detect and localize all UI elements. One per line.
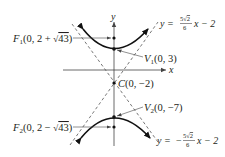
- asymptote-2-equation: y = − 5√2 6 x − 2: [156, 132, 218, 148]
- center-point: [112, 81, 115, 84]
- svg-text:y =: y =: [156, 135, 171, 146]
- svg-text:y =: y =: [159, 18, 174, 29]
- svg-text:6: 6: [186, 141, 190, 148]
- focus-2-label: F2(0, 2 − √43): [12, 122, 73, 135]
- center-label: C(0, −2): [118, 78, 154, 90]
- svg-text:−: −: [176, 135, 182, 146]
- lower-branch: [81, 118, 150, 138]
- svg-text:5√2: 5√2: [180, 15, 190, 22]
- focus-1-label: F1(0, 2 + √43): [12, 33, 73, 46]
- vertex-2-label: V2(0, −7): [144, 102, 183, 115]
- x-axis-label: x: [168, 64, 174, 75]
- upper-branch: [83, 29, 148, 49]
- svg-text:x − 2: x − 2: [196, 135, 218, 146]
- asymptote-1-equation: y = 5√2 6 x − 2: [159, 15, 215, 31]
- y-axis-label: y: [110, 11, 116, 22]
- svg-text:x − 2: x − 2: [193, 18, 215, 29]
- focus-1-point: [112, 36, 115, 39]
- vertex-2-point: [112, 115, 116, 119]
- vertex-1-pointer: [117, 50, 143, 57]
- focus-2-point: [112, 125, 115, 128]
- hyperbola-diagram: x y F1(0, 2 + √43) F2(0, 2 − √4: [0, 0, 225, 157]
- svg-text:6: 6: [183, 24, 187, 31]
- vertex-1-point: [112, 47, 116, 51]
- vertex-2-pointer: [117, 107, 143, 116]
- svg-text:5√2: 5√2: [183, 132, 193, 139]
